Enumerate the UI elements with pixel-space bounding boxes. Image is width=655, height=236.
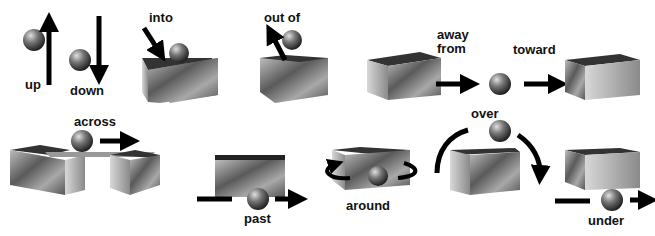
ball-icon bbox=[489, 120, 511, 142]
label-away: away bbox=[437, 28, 469, 42]
over-illustration bbox=[437, 120, 540, 195]
out-of-illustration bbox=[260, 30, 328, 103]
ball-icon bbox=[601, 189, 623, 211]
ball-icon bbox=[169, 43, 189, 63]
ball-icon bbox=[69, 49, 91, 71]
label-into: into bbox=[149, 11, 173, 25]
label-out-of: out of bbox=[264, 11, 300, 25]
down-illustration bbox=[69, 16, 99, 75]
ball-icon bbox=[71, 130, 93, 152]
label-up: up bbox=[25, 78, 41, 92]
label-over: over bbox=[471, 107, 498, 121]
under-illustration bbox=[555, 148, 648, 211]
ball-icon bbox=[368, 166, 388, 186]
ball-icon bbox=[489, 73, 511, 95]
ball-icon bbox=[247, 188, 269, 210]
label-across: across bbox=[74, 115, 116, 129]
across-illustration bbox=[10, 130, 160, 195]
past-illustration bbox=[197, 155, 298, 210]
label-down: down bbox=[70, 84, 104, 98]
label-around: around bbox=[346, 199, 390, 213]
arrow-into-icon bbox=[144, 28, 160, 53]
up-illustration bbox=[23, 22, 49, 85]
into-illustration bbox=[142, 28, 218, 103]
toward-illustration bbox=[524, 54, 640, 100]
label-from: from bbox=[437, 42, 466, 56]
ball-icon bbox=[23, 29, 45, 51]
label-past: past bbox=[244, 212, 271, 226]
ball-icon bbox=[282, 30, 302, 50]
label-under: under bbox=[588, 214, 624, 228]
away-from-illustration bbox=[367, 52, 511, 100]
label-toward: toward bbox=[513, 43, 556, 57]
around-illustration bbox=[327, 147, 415, 190]
